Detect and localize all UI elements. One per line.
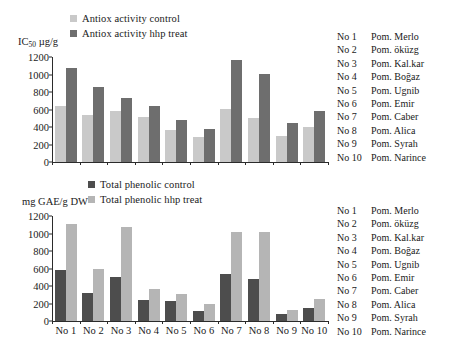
antiox-x-tick-mark <box>80 162 81 165</box>
antiox-bar <box>303 127 314 162</box>
phenolic-bar-group <box>107 216 135 321</box>
sample-index-name: Pom. Kal.kar <box>371 231 424 244</box>
sample-index-number: No 3 <box>337 57 371 70</box>
legend-swatch-icon <box>70 30 77 37</box>
sample-index-name: Pom. Boğaz <box>371 70 420 83</box>
sample-index-row: No 5Pom. Ugnib <box>337 84 426 97</box>
antiox-y-tick-label: 400 <box>33 122 49 133</box>
sample-index-number: No 6 <box>337 271 371 284</box>
antiox-bar <box>82 115 93 162</box>
sample-index-row: No 7Pom. Caber <box>337 284 426 297</box>
legend-antiox: Antiox activity controlAntiox activity h… <box>70 12 187 42</box>
sample-index-row: No 4Pom. Boğaz <box>337 244 426 257</box>
antiox-bar-group <box>218 57 246 162</box>
antiox-x-tick-mark <box>328 162 329 165</box>
legend-swatch-icon <box>88 196 95 203</box>
sample-index-row: No 6Pom. Emir <box>337 97 426 110</box>
phenolic-x-tick-mark <box>52 321 53 324</box>
antiox-x-tick-mark <box>162 162 163 165</box>
phenolic-x-tick-label: No 2 <box>83 325 104 336</box>
antiox-bar <box>193 137 204 162</box>
antiox-x-tick-mark <box>245 162 246 165</box>
antiox-bar <box>259 74 270 162</box>
antiox-bar <box>149 106 160 162</box>
phenolic-bar <box>149 289 160 321</box>
sample-index-number: No 10 <box>337 151 371 164</box>
legend-swatch-icon <box>70 15 77 22</box>
sample-index-number: No 2 <box>337 43 371 56</box>
phenolic-y-tick-label: 800 <box>33 246 49 257</box>
antiox-y-tick-label: 1200 <box>28 52 49 63</box>
legend-label: Total phenolic control <box>100 178 195 191</box>
phenolic-bar <box>193 311 204 321</box>
sample-index-number: No 10 <box>337 325 371 338</box>
figure-container: Antiox activity controlAntiox activity h… <box>0 0 466 359</box>
sample-index-name: Pom. Merlo <box>371 30 419 43</box>
sample-index-row: No 8Pom. Alica <box>337 124 426 137</box>
sample-index-row: No 9Pom. Syrah <box>337 311 426 324</box>
sample-index-number: No 8 <box>337 298 371 311</box>
phenolic-x-tick-label: No 8 <box>249 325 270 336</box>
antiox-legend-item: Antiox activity control <box>70 12 187 25</box>
antiox-bar <box>165 130 176 162</box>
sample-index-name: Pom. Kal.kar <box>371 57 424 70</box>
phenolic-bar <box>204 304 215 322</box>
antiox-bar-group <box>52 57 80 162</box>
phenolic-x-tick-mark <box>190 321 191 324</box>
phenolic-bar-group <box>162 216 190 321</box>
sample-index-row: No 10Pom. Narince <box>337 151 426 164</box>
sample-index-number: No 6 <box>337 97 371 110</box>
phenolic-x-tick-label: No 7 <box>221 325 242 336</box>
phenolic-x-tick-label: No 1 <box>55 325 76 336</box>
sample-index-name: Pom. Ugnib <box>371 84 419 97</box>
sample-index-number: No 7 <box>337 110 371 123</box>
phenolic-bar <box>66 224 77 321</box>
phenolic-x-tick-label: No 10 <box>301 325 327 336</box>
phenolic-bar-group <box>80 216 108 321</box>
sample-index-name: Pom. Syrah <box>371 137 418 150</box>
phenolic-bar <box>55 270 66 321</box>
phenolic-bar <box>82 293 93 321</box>
phenolic-x-tick-mark <box>80 321 81 324</box>
phenolic-bar-group <box>52 216 80 321</box>
phenolic-bar <box>176 294 187 321</box>
sample-index-number: No 1 <box>337 30 371 43</box>
sample-index-number: No 8 <box>337 124 371 137</box>
sample-index-number: No 9 <box>337 311 371 324</box>
phenolic-bar-group <box>245 216 273 321</box>
antiox-x-tick-mark <box>190 162 191 165</box>
antiox-y-tick-label: 800 <box>33 87 49 98</box>
phenolic-y-tick-label: 600 <box>33 263 49 274</box>
sample-index-name: Pom. Emir <box>371 271 414 284</box>
y-axis-title-rest: µg/g <box>36 36 58 47</box>
phenolic-y-tick-label: 1200 <box>28 211 49 222</box>
antiox-bar <box>220 109 231 162</box>
sample-index-name: Pom. Alica <box>371 298 415 311</box>
phenolic-x-tick-mark <box>273 321 274 324</box>
antiox-bar <box>176 120 187 162</box>
legend-label: Total phenolic hhp treat <box>100 193 202 206</box>
sample-index-list-bottom: No 1Pom. MerloNo 2Pom. öküzgNo 3Pom. Kal… <box>337 204 426 338</box>
sample-index-list-top: No 1Pom. MerloNo 2Pom. öküzgNo 3Pom. Kal… <box>337 30 426 164</box>
antiox-bar-group <box>107 57 135 162</box>
sample-index-row: No 1Pom. Merlo <box>337 30 426 43</box>
antiox-x-tick-mark <box>107 162 108 165</box>
sample-index-name: Pom. Narince <box>371 325 426 338</box>
antiox-bar-group <box>162 57 190 162</box>
antiox-bar-group <box>135 57 163 162</box>
plot-area-antiox: 020040060080010001200 <box>52 57 328 162</box>
antiox-bar-group <box>245 57 273 162</box>
sample-index-name: Pom. Narince <box>371 151 426 164</box>
sample-index-row: No 3Pom. Kal.kar <box>337 231 426 244</box>
phenolic-bar <box>231 232 242 321</box>
phenolic-legend-item: Total phenolic hhp treat <box>88 193 202 206</box>
antiox-bar <box>248 118 259 162</box>
sample-index-name: Pom. öküzg <box>371 43 419 56</box>
y-axis-title-sub: 50 <box>29 40 37 49</box>
legend-label: Antiox activity hhp treat <box>82 27 187 40</box>
phenolic-bar <box>138 300 149 321</box>
sample-index-row: No 4Pom. Boğaz <box>337 70 426 83</box>
sample-index-name: Pom. Emir <box>371 97 414 110</box>
phenolic-bar <box>287 310 298 321</box>
sample-index-row: No 10Pom. Narince <box>337 325 426 338</box>
